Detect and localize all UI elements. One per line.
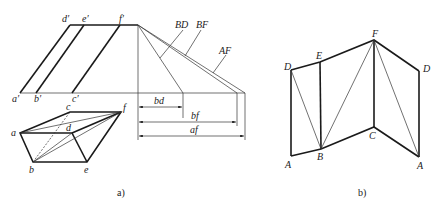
label-D-left: D — [283, 61, 292, 72]
label-C: C — [369, 130, 376, 141]
label-BF: BF — [196, 19, 209, 30]
label-b: b — [29, 164, 34, 175]
caption-b: b) — [358, 187, 366, 199]
label-c-prime: c′ — [72, 93, 79, 104]
label-b-prime: b′ — [34, 93, 42, 104]
label-E: E — [315, 50, 322, 61]
front-view — [20, 25, 245, 140]
label-e: e — [84, 164, 89, 175]
label-bf: bf — [191, 110, 200, 121]
label-B: B — [317, 151, 323, 162]
true-length-construction — [138, 25, 245, 140]
label-BD: BD — [175, 19, 189, 30]
label-a-prime: a′ — [12, 93, 20, 104]
label-a: a — [11, 127, 16, 138]
label-d: d — [66, 122, 72, 133]
label-AF: AF — [218, 45, 232, 56]
top-view — [20, 112, 121, 162]
development-view — [291, 40, 419, 157]
label-f-prime: f′ — [119, 13, 125, 24]
label-e-prime: e′ — [82, 13, 89, 24]
caption-a: a) — [117, 187, 125, 199]
label-A-right: A — [416, 160, 424, 171]
label-F: F — [371, 28, 379, 39]
label-bd: bd — [154, 95, 165, 106]
diagram-canvas: a′ b′ c′ d′ e′ f′ BD BF AF bd bf af a b … — [0, 0, 438, 212]
label-c: c — [66, 101, 71, 112]
label-A-left: A — [284, 159, 292, 170]
label-f: f — [123, 102, 127, 113]
label-af: af — [190, 124, 199, 135]
label-D-right: D — [422, 63, 431, 74]
label-d-prime: d′ — [62, 13, 70, 24]
